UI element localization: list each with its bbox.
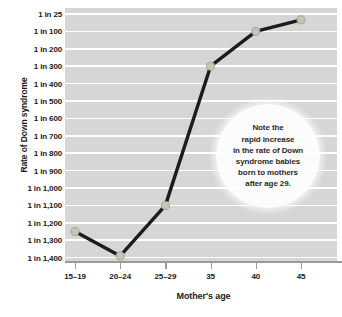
annotation-line: Note the — [216, 122, 320, 133]
annotation-line: born to mothers — [216, 167, 320, 178]
x-axis-title: Mother's age — [65, 291, 342, 301]
y-axis-tick-label: 1 in 800 — [8, 149, 62, 158]
x-axis-tick-group — [65, 262, 342, 269]
y-axis-tick-label: 1 in 1,300 — [8, 236, 62, 245]
annotation-text: Note therapid increasein the rate of Dow… — [216, 122, 320, 189]
y-axis-tick-label: 1 in 1,200 — [8, 218, 62, 227]
y-axis-tick-label: 1 in 1,000 — [8, 184, 62, 193]
data-point-marker: 35: 1 in 300 — [207, 62, 215, 70]
x-axis-tick — [165, 262, 166, 269]
x-axis-tick — [256, 262, 257, 269]
plot-area: 15–19: 1 in 1,25020–24: 1 in 1,40025–29:… — [65, 8, 337, 261]
y-axis-tick-label: 1 in 1,400 — [8, 253, 62, 262]
x-axis-tick — [75, 262, 76, 269]
y-axis-tick-label: 1 in 500 — [8, 97, 62, 106]
down-syndrome-rate-chart: Rate of Down syndrome 1 in 251 in 1001 i… — [0, 0, 342, 317]
data-point-marker: 20–24: 1 in 1,400 — [116, 252, 124, 260]
x-axis-tick — [211, 262, 212, 269]
data-point-marker: 25–29: 1 in 1,100 — [161, 201, 169, 209]
y-axis-tick-label: 1 in 200 — [8, 44, 62, 53]
y-axis-tick-label: 1 in 700 — [8, 131, 62, 140]
data-point-marker: 45: 1 in 50 — [297, 16, 305, 24]
y-axis-tick-label: 1 in 900 — [8, 166, 62, 175]
annotation-line: in the rate of Down — [216, 145, 320, 156]
data-point-marker: 15–19: 1 in 1,250 — [71, 227, 79, 235]
y-axis-tick-label: 1 in 100 — [8, 27, 62, 36]
annotation-line: rapid increase — [216, 134, 320, 145]
annotation-line: after age 29. — [216, 178, 320, 189]
y-axis-tick-label: 1 in 25 — [8, 10, 62, 19]
y-axis-tick-label-group: 1 in 251 in 1001 in 2001 in 3001 in 4001… — [8, 0, 64, 270]
y-axis-tick-label: 1 in 300 — [8, 62, 62, 71]
x-axis-tick — [120, 262, 121, 269]
x-axis-tick-label: 45 — [271, 272, 331, 281]
x-axis-tick — [301, 262, 302, 269]
annotation-bubble: Note therapid increasein the rate of Dow… — [216, 104, 320, 208]
y-axis-tick-label: 1 in 400 — [8, 79, 62, 88]
x-axis-tick-label-group: 15–1920–2425–29354045 — [0, 272, 342, 286]
y-axis-tick-label: 1 in 1,100 — [8, 201, 62, 210]
data-point-marker: 40: 1 in 100 — [252, 27, 260, 35]
y-axis-tick-label: 1 in 600 — [8, 114, 62, 123]
annotation-line: syndrome babies — [216, 156, 320, 167]
